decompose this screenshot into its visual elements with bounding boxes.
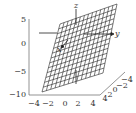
y-tick-label: −4	[121, 75, 133, 84]
z-tick-label: −10	[9, 90, 26, 99]
x-tick-label: 0	[62, 99, 67, 108]
z-axis-label: z	[73, 1, 79, 10]
plane-wireframe-mesh	[42, 4, 117, 92]
z-tick-label: −5	[14, 67, 26, 76]
z-tick-label: 0	[21, 39, 26, 48]
z-tick-label: 5	[21, 15, 26, 24]
x-tick-label: 4	[90, 99, 95, 108]
x-tick-label: −2	[42, 99, 54, 108]
y-arrow-head-icon	[111, 33, 114, 36]
x-axis-label: x	[57, 45, 62, 54]
x-tick-label: 2	[75, 99, 80, 108]
y-axis-label: y	[114, 29, 120, 38]
plane-3d-plot: z y x 5 0 −5 −10 −4 −2 0 2 4 4 2 0 −2 −4	[0, 0, 136, 113]
x-tick-label: −4	[28, 99, 40, 108]
